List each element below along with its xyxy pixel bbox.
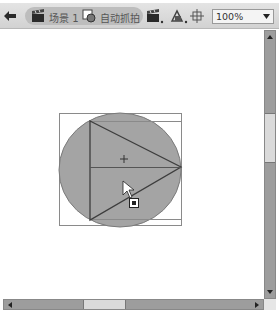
back-button[interactable] xyxy=(3,9,17,23)
stage-drawing xyxy=(0,30,264,298)
scene-clapboard-icon xyxy=(31,9,45,23)
zoom-dropdown-button[interactable] xyxy=(260,11,272,22)
scroll-up-icon xyxy=(267,35,273,39)
back-arrow-icon xyxy=(4,11,16,21)
zoom-level-select[interactable]: 100% xyxy=(212,9,274,24)
scroll-left-icon xyxy=(8,302,12,308)
breadcrumb-scene[interactable]: 场景 1 xyxy=(49,10,79,25)
scroll-down-button[interactable] xyxy=(265,287,275,297)
stage[interactable] xyxy=(0,30,264,298)
horizontal-scroll-thumb[interactable] xyxy=(83,300,126,309)
breadcrumb: 场景 1 自动抓拍 xyxy=(25,7,143,25)
breadcrumb-symbol[interactable]: 自动抓拍 xyxy=(100,10,140,25)
center-stage-button[interactable] xyxy=(188,8,206,24)
zoom-value: 100% xyxy=(216,11,243,22)
scroll-right-icon xyxy=(255,302,259,308)
horizontal-scrollbar[interactable] xyxy=(3,299,264,310)
vertical-scrollbar[interactable] xyxy=(264,30,276,299)
scroll-right-button[interactable] xyxy=(252,300,262,309)
graphic-symbol-icon xyxy=(82,9,96,23)
scroll-up-button[interactable] xyxy=(265,32,275,42)
circle-shape[interactable] xyxy=(59,113,181,227)
edit-symbols-button[interactable] xyxy=(170,8,188,24)
scrollbar-corner xyxy=(264,299,276,310)
triangle-down-icon xyxy=(263,14,270,19)
scroll-left-button[interactable] xyxy=(5,300,15,309)
vertical-scroll-thumb[interactable] xyxy=(265,113,275,163)
scroll-down-icon xyxy=(267,290,273,294)
edit-bar: 场景 1 自动抓拍 100% xyxy=(0,3,279,29)
edit-scene-button[interactable] xyxy=(146,8,164,24)
